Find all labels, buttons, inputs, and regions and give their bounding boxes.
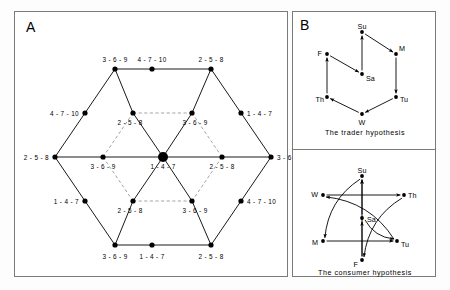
node-n-mid-right: [219, 154, 224, 159]
node-label-n-bot-left: 3 - 6 - 9: [102, 253, 127, 260]
node-label-n-left: 2 - 5 - 8: [24, 154, 49, 161]
node-label-n-inner-bot-right: 3 - 6 - 9: [182, 207, 207, 214]
node-tu: [395, 239, 399, 243]
trader-caption: The trader hypothesis: [325, 128, 405, 137]
node-label-n-lower-right-mid: 4 - 7 - 10: [247, 198, 276, 205]
node-n-upper-left-mid: [82, 110, 87, 115]
day-label-sa: Sa: [367, 216, 376, 224]
day-label-su: Su: [358, 23, 367, 31]
node-w: [360, 112, 364, 116]
node-n-inner-bot-left: [130, 198, 135, 203]
day-label-th: Th: [408, 192, 416, 200]
node-sa: [360, 72, 364, 76]
trader-hypothesis-diagram: SuMTuWThFSa The trader hypothesis: [293, 12, 437, 149]
node-label-n-bot-right: 2 - 5 - 8: [198, 253, 223, 260]
arrow-w-to-th: [330, 99, 359, 113]
consumer-caption: The consumer hypothesis: [318, 268, 412, 277]
day-label-w: W: [311, 191, 318, 199]
node-label-n-inner-top-right: 3 - 6 - 9: [182, 119, 207, 126]
figure-root: 3 - 6 - 94 - 7 - 102 - 5 - 84 - 7 - 101 …: [0, 0, 450, 290]
node-label-n-inner-top-left: 2 - 5 - 8: [117, 119, 142, 126]
node-label-n-lower-left-mid: 1 - 4 - 7: [54, 198, 79, 205]
node-label-n-top-right: 2 - 5 - 8: [198, 56, 223, 63]
node-n-inner-top-right: [189, 110, 194, 115]
node-n-bot-left: [112, 242, 117, 247]
node-n-left: [52, 154, 57, 159]
day-label-tu: Tu: [401, 241, 409, 249]
node-n-upper-right-mid: [238, 110, 243, 115]
node-sa: [360, 216, 364, 220]
consumer-hypothesis-diagram: SuThTuFMWSa The consumer hypothesis: [293, 150, 437, 278]
node-tu: [394, 95, 398, 99]
panel-b: SuMTuWThFSa The trader hypothesis SuThTu…: [292, 11, 436, 277]
node-n-top-right: [208, 66, 213, 71]
node-n-bot-right: [208, 242, 213, 247]
solid-edge-6: [115, 69, 133, 113]
node-n-bot-mid: [149, 242, 154, 247]
node-n-right: [268, 154, 273, 159]
arrow-su-to-m: [365, 34, 393, 52]
node-f: [360, 258, 364, 262]
node-n-top-left: [112, 66, 117, 71]
node-label-n-upper-left-mid: 4 - 7 - 10: [50, 110, 79, 117]
node-n-lower-left-mid: [82, 198, 87, 203]
node-label-n-mid-left: 3 - 6 - 9: [90, 163, 115, 170]
node-label-n-top-mid: 4 - 7 - 10: [137, 56, 166, 63]
node-w: [321, 193, 325, 197]
day-label-m: M: [312, 239, 318, 247]
day-label-f: F: [318, 50, 322, 58]
solid-edge-9: [192, 69, 211, 113]
node-label-n-center: 1 - 4 - 7: [150, 163, 175, 170]
node-label-n-top-left: 3 - 6 - 9: [102, 56, 127, 63]
node-f: [325, 52, 329, 56]
day-label-m: M: [399, 45, 405, 53]
panel-a: 3 - 6 - 94 - 7 - 102 - 5 - 84 - 7 - 101 …: [14, 11, 288, 277]
node-m: [321, 239, 325, 243]
node-th: [402, 193, 406, 197]
arrow-su-to-m: [325, 179, 360, 238]
node-label-n-bot-mid: 1 - 4 - 7: [139, 253, 164, 260]
node-label-n-inner-bot-left: 2 - 5 - 8: [117, 207, 142, 214]
arrow-tu-to-w: [365, 99, 393, 113]
day-label-su: Su: [358, 167, 367, 175]
panel-b-letter: B: [300, 18, 309, 32]
node-m: [394, 52, 398, 56]
node-n-lower-right-mid: [238, 198, 243, 203]
day-label-sa: Sa: [366, 75, 375, 83]
panel-a-letter: A: [26, 20, 35, 34]
day-label-tu: Tu: [400, 96, 408, 104]
day-label-w: W: [359, 119, 366, 127]
day-label-th: Th: [316, 96, 324, 104]
node-n-mid-left: [100, 154, 105, 159]
node-n-center: [158, 152, 168, 162]
node-label-n-upper-right-mid: 1 - 4 - 7: [247, 110, 272, 117]
arrow-f-to-sa: [330, 56, 359, 72]
node-th: [325, 95, 329, 99]
node-n-inner-bot-right: [189, 198, 194, 203]
node-label-n-mid-right: 2 - 5 - 8: [209, 163, 234, 170]
node-n-inner-top-left: [130, 110, 135, 115]
node-n-top-mid: [149, 66, 154, 71]
panel-a-network-graph: [15, 12, 289, 278]
